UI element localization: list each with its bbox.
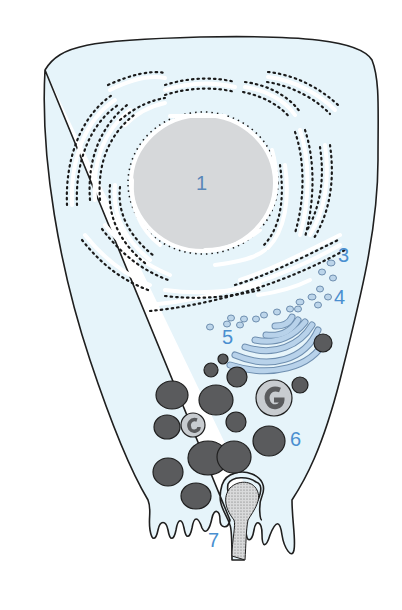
label-4: 4 [334,286,345,308]
label-7: 7 [208,529,219,551]
label-6: 6 [290,428,301,450]
cell-diagram: 1 3 4 5 6 7 [0,0,402,610]
label-1: 1 [196,172,207,194]
label-5: 5 [222,326,233,348]
label-3: 3 [338,244,349,266]
